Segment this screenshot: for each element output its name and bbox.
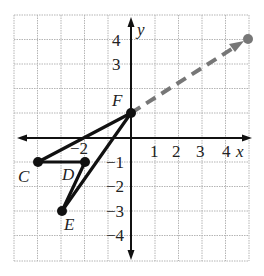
x-axis-arrow-right-icon: [242, 135, 252, 142]
x-tick-4: 4: [222, 142, 231, 161]
axes: [24, 24, 246, 254]
y-axis-label: y: [135, 20, 145, 39]
y-axis-arrow-down-icon: [128, 250, 135, 260]
x-tick-neg2: −2: [70, 139, 88, 158]
label-e: E: [63, 215, 75, 234]
x-tick-2: 2: [172, 142, 181, 161]
y-tick-neg4: −4: [106, 226, 125, 245]
x-tick-1: 1: [150, 142, 159, 161]
point-d: [80, 157, 90, 167]
y-tick-neg2: −2: [106, 177, 124, 196]
label-c: C: [18, 167, 30, 186]
y-axis-arrow-up-icon: [128, 17, 135, 27]
label-f: F: [111, 91, 123, 110]
dashed-vector: [131, 34, 253, 113]
label-d: D: [61, 165, 75, 184]
y-tick-3: 3: [112, 55, 121, 74]
x-axis-label: x: [235, 142, 244, 161]
y-tick-neg1: −1: [106, 153, 124, 172]
vector-endpoint: [243, 34, 253, 44]
y-tick-neg3: −3: [106, 202, 124, 221]
point-f: [126, 108, 136, 118]
x-axis-arrow-left-icon: [17, 135, 27, 142]
y-tick-4: 4: [112, 31, 121, 50]
coordinate-plane: −2 1 2 3 4 x y 4 3 −1 −2 −3 −4 C D E F: [0, 0, 264, 276]
x-tick-3: 3: [196, 142, 205, 161]
point-c: [33, 157, 43, 167]
